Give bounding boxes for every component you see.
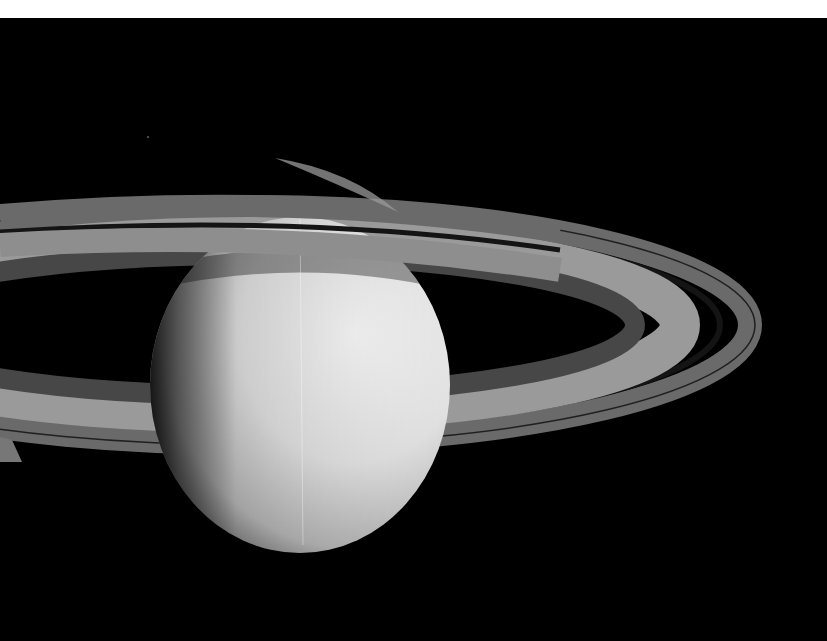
star-speck: [147, 136, 149, 138]
saturn-scene: [0, 0, 827, 641]
